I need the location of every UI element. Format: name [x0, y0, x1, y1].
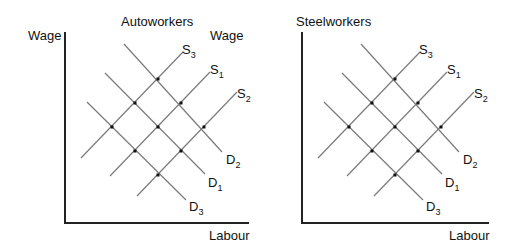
demand-curve-d1: [105, 73, 205, 174]
label-d3: D3: [189, 199, 203, 217]
panel-title: Autoworkers: [121, 14, 194, 29]
autoworkers-panel: Autoworkers Wage Labour S3 S1 S2 D2 D1 D…: [28, 14, 251, 243]
supply-curve-s3: [81, 52, 183, 158]
label-d2: D2: [463, 152, 477, 170]
label-s3: S3: [419, 42, 433, 60]
labour-market-diagrams: Autoworkers Wage Labour S3 S1 S2 D2 D1 D…: [0, 0, 514, 249]
label-d2: D2: [226, 152, 240, 170]
y-axis-label: Wage: [28, 28, 61, 43]
x-axis-label: Labour: [209, 228, 250, 243]
supply-curve-s2: [374, 92, 474, 196]
supply-curve-s2: [137, 92, 237, 196]
y-axis-label: Wage: [210, 28, 243, 43]
label-s2: S2: [237, 86, 251, 104]
panel-title: Steelworkers: [296, 14, 372, 29]
label-d3: D3: [426, 199, 440, 217]
steelworkers-panel: Steelworkers Wage Labour S3 S1 S2 D2 D1 …: [210, 14, 490, 243]
supply-curve-s1: [110, 72, 210, 176]
x-axis-label: Labour: [449, 228, 490, 243]
supply-curve-s3: [318, 52, 420, 158]
label-s1: S1: [447, 62, 461, 80]
label-s3: S3: [182, 42, 196, 60]
label-d1: D1: [445, 175, 459, 193]
demand-curve-d1: [342, 73, 442, 174]
label-d1: D1: [208, 175, 222, 193]
label-s1: S1: [210, 62, 224, 80]
label-s2: S2: [474, 86, 488, 104]
supply-curve-s1: [347, 72, 447, 176]
